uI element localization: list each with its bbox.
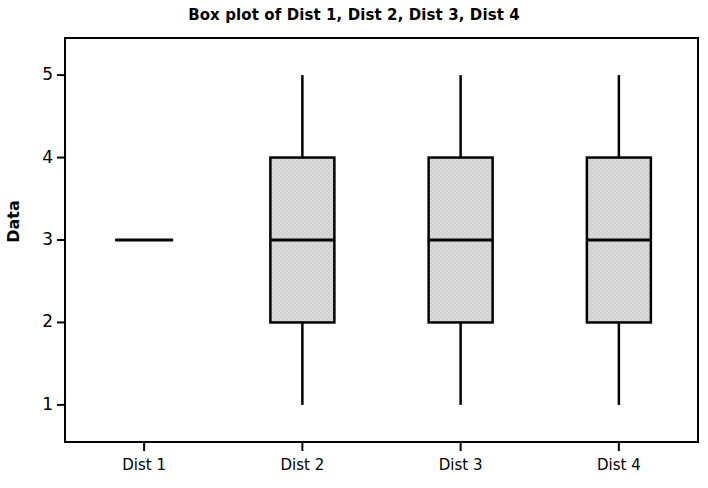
box-plot-figure: Box plot of Dist 1, Dist 2, Dist 3, Dist…	[0, 0, 708, 488]
plot-canvas	[0, 0, 708, 488]
